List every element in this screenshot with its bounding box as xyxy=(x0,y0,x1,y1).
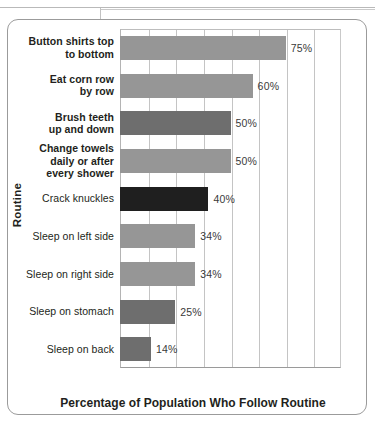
bar-row: 50% xyxy=(120,111,341,135)
category-label-line: Change towels xyxy=(19,142,114,155)
category-label-line: Sleep on stomach xyxy=(19,305,114,318)
x-axis-title: Percentage of Population Who Follow Rout… xyxy=(28,396,358,410)
category-label-column: Button shirts topto bottomEat corn rowby… xyxy=(22,29,117,368)
category-label: Button shirts topto bottom xyxy=(19,35,114,60)
category-label: Change towelsdaily or afterevery shower xyxy=(19,142,114,180)
bar xyxy=(120,300,175,324)
bar-value-label: 60% xyxy=(258,80,280,92)
bar-value-label: 34% xyxy=(200,268,222,280)
bar-row: 40% xyxy=(120,187,341,211)
bar xyxy=(120,36,286,60)
bar-row: 60% xyxy=(120,74,341,98)
bar-row: 34% xyxy=(120,224,341,248)
page-top-rule xyxy=(0,7,375,8)
bar-rows: 75%60%50%50%40%34%34%25%14% xyxy=(120,29,341,368)
category-label: Brush teethup and down xyxy=(19,111,114,136)
category-label: Sleep on right side xyxy=(19,268,114,281)
bar-value-label: 14% xyxy=(156,343,178,355)
bar-row: 75% xyxy=(120,36,341,60)
bar-value-label: 34% xyxy=(200,230,222,242)
bar xyxy=(120,111,231,135)
category-label-line: Crack knuckles xyxy=(19,192,114,205)
bar-row: 50% xyxy=(120,149,341,173)
bar-row: 25% xyxy=(120,300,341,324)
bar xyxy=(120,149,231,173)
category-label-line: Sleep on back xyxy=(19,343,114,356)
category-label-line: daily or after xyxy=(19,155,114,168)
bar-row: 34% xyxy=(120,262,341,286)
page-top-rule-secondary xyxy=(100,9,375,10)
bar-value-label: 25% xyxy=(180,306,202,318)
category-label: Sleep on left side xyxy=(19,230,114,243)
category-label-line: by row xyxy=(19,85,114,98)
category-label: Sleep on stomach xyxy=(19,305,114,318)
category-label-line: to bottom xyxy=(19,48,114,61)
bar xyxy=(120,74,253,98)
category-label: Eat corn rowby row xyxy=(19,73,114,98)
category-label-line: Eat corn row xyxy=(19,73,114,86)
bar-value-label: 40% xyxy=(213,193,235,205)
plot-area: 75%60%50%50%40%34%34%25%14% xyxy=(120,29,341,368)
bar xyxy=(120,262,195,286)
bar xyxy=(120,337,151,361)
bar xyxy=(120,224,195,248)
category-label-line: every shower xyxy=(19,167,114,180)
category-label-line: Button shirts top xyxy=(19,35,114,48)
category-label: Crack knuckles xyxy=(19,192,114,205)
category-label-line: up and down xyxy=(19,123,114,136)
bar-value-label: 75% xyxy=(291,42,313,54)
category-label-line: Sleep on left side xyxy=(19,230,114,243)
category-label-line: Sleep on right side xyxy=(19,268,114,281)
bar-row: 14% xyxy=(120,337,341,361)
category-label: Sleep on back xyxy=(19,343,114,356)
category-label-line: Brush teeth xyxy=(19,111,114,124)
bar-value-label: 50% xyxy=(236,155,258,167)
bar-value-label: 50% xyxy=(236,117,258,129)
chart-page: Routine Button shirts topto bottomEat co… xyxy=(0,0,375,424)
bar xyxy=(120,187,208,211)
